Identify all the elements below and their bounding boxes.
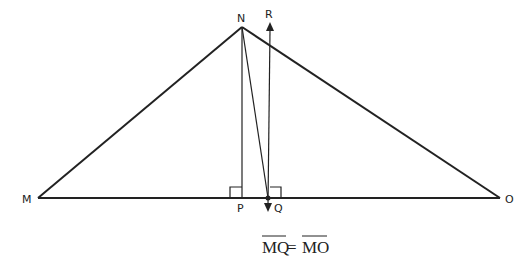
arrow-up-icon: [266, 22, 274, 31]
segment-nq: [242, 27, 268, 198]
equation-right: MO: [302, 238, 329, 257]
geometry-diagram: N R M O P Q MQ = MO: [0, 0, 531, 270]
label-p: P: [237, 202, 244, 215]
side-mn: [38, 27, 242, 198]
label-m: M: [22, 193, 32, 206]
label-o: O: [505, 193, 514, 206]
arrow-down-icon: [264, 203, 272, 212]
point-q-dot: [266, 196, 271, 201]
label-q: Q: [274, 202, 283, 215]
perpendicular-qr: [268, 30, 270, 204]
equation-equals: =: [287, 238, 297, 257]
label-n: N: [237, 12, 245, 25]
equation-left: MQ: [262, 238, 289, 257]
right-angle-marker-p: [230, 187, 242, 198]
label-r: R: [265, 8, 273, 21]
equation: MQ = MO: [262, 236, 329, 257]
side-no: [242, 27, 500, 198]
right-angle-marker-q: [270, 187, 281, 198]
